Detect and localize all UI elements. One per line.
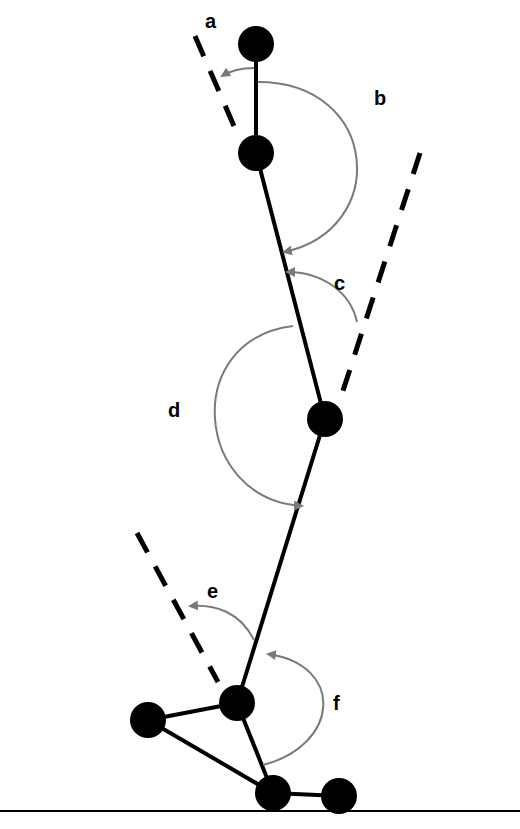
joint-metatarsal [255,775,291,811]
label-a: a [205,10,217,32]
segment-trunk [256,153,325,419]
angle-arc-a [222,68,254,76]
joint-toe [321,778,357,814]
angle-arc-b [258,82,357,252]
segment-heel-metatarsal [148,720,273,793]
reference-line-a [195,36,240,140]
joint-hip [307,401,343,437]
joint-neck [238,135,274,171]
label-c: c [334,272,345,294]
joint-angle-diagram: a b c d e f [0,0,520,829]
label-f: f [333,692,340,714]
reference-line-e [137,533,218,682]
angle-arc-d [215,326,302,506]
reference-line-c [340,153,420,400]
label-e: e [207,580,218,602]
joint-ankle [219,685,255,721]
joint-head [238,26,274,62]
angle-arc-e [190,606,254,640]
label-d: d [168,399,180,421]
segment-leg [237,419,325,703]
angle-arc-f [263,654,323,765]
label-b: b [374,87,386,109]
joint-heel [130,702,166,738]
